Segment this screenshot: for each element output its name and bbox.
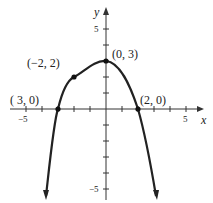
x-tick-neg5: −5 (18, 114, 28, 124)
x-tick-5: 5 (183, 114, 188, 124)
y-tick-neg5: −5 (89, 184, 99, 194)
x-axis-label: x (200, 113, 207, 127)
point-neg2-2 (71, 74, 76, 79)
curve (46, 61, 156, 196)
point-neg3-0 (55, 106, 60, 111)
point-label-neg2-2: (−2, 2) (27, 56, 60, 70)
point-2-0 (135, 106, 140, 111)
x-axis-arrow-icon (197, 106, 204, 112)
graph: y x 5 −5 −5 5 ( 3, 0) (−2, 2) (0, 3) (2,… (0, 0, 213, 203)
y-axis-arrow-icon (103, 7, 109, 15)
y-tick-5: 5 (94, 24, 99, 34)
point-0-3 (103, 58, 108, 63)
point-label-neg3-0: ( 3, 0) (10, 93, 39, 107)
point-label-0-3: (0, 3) (112, 47, 138, 61)
curve-left-arrow-icon (43, 190, 49, 200)
y-axis-label: y (93, 5, 100, 19)
point-label-2-0: (2, 0) (140, 93, 166, 107)
curve-right-arrow-icon (153, 190, 159, 200)
